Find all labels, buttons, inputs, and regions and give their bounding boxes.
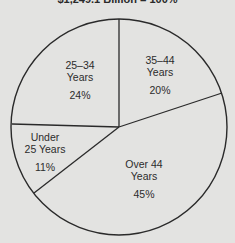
slice-label-line2: Years	[147, 66, 173, 78]
slice-percent: 24%	[65, 89, 94, 101]
slice-label-35-44: 35–44 Years 20%	[145, 54, 174, 96]
slice-percent: 45%	[125, 188, 162, 200]
slice-label-line2: Years	[67, 71, 93, 83]
slice-label-line1: 25–34	[65, 59, 94, 71]
slice-label-line1: Over 44	[125, 158, 162, 170]
slice-percent: 20%	[145, 84, 174, 96]
slice-percent: 11%	[25, 161, 66, 173]
slice-label-line1: 35–44	[145, 54, 174, 66]
divider-left	[12, 124, 119, 127]
slice-label-under-25: Under 25 Years 11%	[25, 131, 66, 173]
slice-label-line2: Years	[131, 170, 157, 182]
pie-chart	[0, 0, 235, 243]
slice-label-over-44: Over 44 Years 45%	[125, 158, 162, 200]
divider-right	[119, 93, 222, 127]
slice-label-line1: Under	[31, 131, 60, 143]
slice-label-line2: 25 Years	[25, 143, 66, 155]
slice-label-25-34: 25–34 Years 24%	[65, 59, 94, 101]
